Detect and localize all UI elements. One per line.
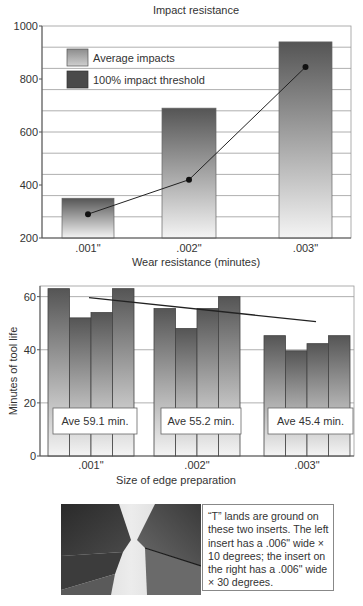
y-tick-label: 0 xyxy=(30,450,36,462)
photo-caption: “T” lands are ground on these two insert… xyxy=(202,504,334,591)
left-insert xyxy=(61,504,131,556)
chart2-x-tick-labels: .001".002".003" xyxy=(78,459,319,471)
bar-tool-life xyxy=(307,344,329,456)
inserts-photo xyxy=(61,504,201,595)
chart2-y-axis-label: Minutes of tool life xyxy=(7,327,19,416)
bar-tool-life xyxy=(176,329,198,457)
y-tick-label: 20 xyxy=(24,397,36,409)
x-tick-label: .003" xyxy=(294,459,319,471)
x-tick-label: .002" xyxy=(184,459,209,471)
chart2-average-labels: Ave 59.1 min.Ave 55.2 min.Ave 45.4 min. xyxy=(53,408,353,434)
average-label: Ave 55.2 min. xyxy=(167,415,234,427)
bar-tool-life xyxy=(329,336,351,456)
tool-life-chart: 0204060 Ave 59.1 min.Ave 55.2 min.Ave 45… xyxy=(0,0,363,500)
average-label: Ave 45.4 min. xyxy=(277,415,344,427)
x-tick-label: .001" xyxy=(78,459,103,471)
chart2-x-axis-label: Size of edge preparation xyxy=(116,474,236,486)
bar-tool-life xyxy=(91,313,113,456)
average-label: Ave 59.1 min. xyxy=(61,415,128,427)
bar-tool-life xyxy=(264,336,286,456)
bar-tool-life xyxy=(286,351,308,456)
bar-tool-life xyxy=(70,318,92,456)
y-tick-label: 60 xyxy=(24,291,36,303)
y-tick-label: 40 xyxy=(24,344,36,356)
